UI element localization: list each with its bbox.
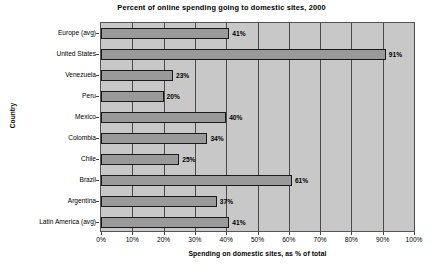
y-axis-tick-label: Argentina	[0, 195, 96, 206]
y-axis-tick-mark	[96, 33, 99, 34]
bar	[101, 196, 217, 207]
bar	[101, 49, 386, 60]
x-axis-tick-labels: 0%10%20%30%40%50%60%70%80%90%100%	[100, 232, 415, 248]
plot-area: 41%91%23%20%40%34%25%61%37%41%	[100, 22, 415, 232]
bar-value-label: 41%	[232, 28, 245, 39]
y-axis-tick-mark	[96, 54, 99, 55]
y-axis-tick-label: Chile	[0, 153, 96, 164]
bar	[101, 154, 179, 165]
x-axis-tick-label: 100%	[394, 236, 434, 243]
y-axis-tick-mark	[96, 138, 99, 139]
x-axis-tick-mark	[414, 232, 415, 235]
bar-chart: Percent of online spending going to dome…	[0, 0, 443, 270]
bar	[101, 112, 226, 123]
y-axis-tick-label: Europe (avg)	[0, 27, 96, 38]
bar	[101, 217, 229, 228]
x-axis-tick-mark	[195, 232, 196, 235]
x-axis-tick-mark	[320, 232, 321, 235]
bar-value-label: 20%	[167, 91, 180, 102]
chart-title: Percent of online spending going to dome…	[0, 3, 443, 12]
x-axis-tick-mark	[258, 232, 259, 235]
bar-value-label: 37%	[220, 196, 233, 207]
y-axis-tick-mark	[96, 159, 99, 160]
bar-value-label: 41%	[232, 217, 245, 228]
y-axis-tick-label: United States	[0, 48, 96, 59]
x-axis-tick-mark	[383, 232, 384, 235]
y-axis-tick-label: Venezuela	[0, 69, 96, 80]
bar-row: 25%	[101, 154, 416, 165]
y-axis-tick-mark	[96, 96, 99, 97]
x-axis-tick-mark	[226, 232, 227, 235]
bar-row: 23%	[101, 70, 416, 81]
bar	[101, 70, 173, 81]
bar-row: 34%	[101, 133, 416, 144]
y-axis-tick-label: Mexico	[0, 111, 96, 122]
y-axis-tick-label: Brazil	[0, 174, 96, 185]
bar	[101, 133, 207, 144]
y-axis-tick-labels: Europe (avg)United StatesVenezuelaPeruMe…	[0, 22, 96, 232]
x-axis-tick-mark	[132, 232, 133, 235]
bar-value-label: 23%	[176, 70, 189, 81]
y-axis-tick-mark	[96, 75, 99, 76]
bar-row: 41%	[101, 217, 416, 228]
bar-row: 37%	[101, 196, 416, 207]
x-axis-tick-mark	[164, 232, 165, 235]
bar-row: 41%	[101, 28, 416, 39]
bar-value-label: 91%	[389, 49, 402, 60]
y-axis-tick-mark	[96, 117, 99, 118]
bar-value-label: 61%	[295, 175, 308, 186]
y-axis-tick-mark	[96, 222, 99, 223]
bar-value-label: 34%	[210, 133, 223, 144]
bar-row: 20%	[101, 91, 416, 102]
bar-row: 40%	[101, 112, 416, 123]
bar	[101, 91, 164, 102]
bar-value-label: 40%	[229, 112, 242, 123]
bar	[101, 175, 292, 186]
bar	[101, 28, 229, 39]
bar-row: 91%	[101, 49, 416, 60]
y-axis-tick-label: Latin America (avg)	[0, 216, 96, 227]
bar-row: 61%	[101, 175, 416, 186]
bar-value-label: 25%	[182, 154, 195, 165]
y-axis-tick-label: Colombia	[0, 132, 96, 143]
y-axis-tick-mark	[96, 180, 99, 181]
y-axis-tick-label: Peru	[0, 90, 96, 101]
x-axis-tick-mark	[351, 232, 352, 235]
y-axis-tick-mark	[96, 201, 99, 202]
x-axis-tick-mark	[101, 232, 102, 235]
x-axis-title: Spending on domestic sites, as % of tota…	[100, 250, 415, 257]
x-axis-tick-mark	[289, 232, 290, 235]
